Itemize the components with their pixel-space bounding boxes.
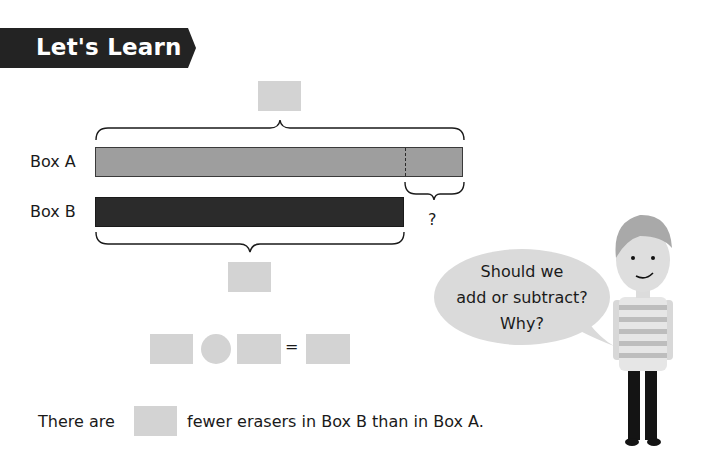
- difference-answer-blank[interactable]: [134, 406, 177, 436]
- sentence-after-blank: fewer erasers in Box B than in Box A.: [187, 412, 484, 431]
- boy-character-illustration: [0, 0, 717, 470]
- sentence-before-blank: There are: [38, 412, 115, 431]
